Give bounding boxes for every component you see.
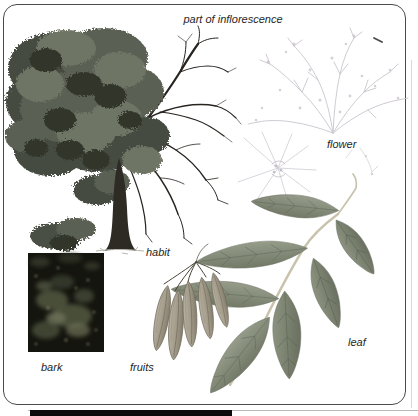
habit-illustration — [5, 26, 241, 254]
label-flower: flower — [327, 138, 358, 150]
label-part-of-inflorescence: part of inflorescence — [182, 13, 282, 25]
label-fruits: fruits — [130, 361, 154, 373]
footer-black-bar — [30, 410, 232, 416]
label-bark: bark — [41, 361, 63, 373]
label-habit: habit — [146, 246, 171, 258]
label-leaf: leaf — [348, 336, 367, 348]
pen-tick-mark — [374, 38, 382, 42]
plate-illustration: part of inflorescence flower habit bark … — [0, 0, 418, 416]
leaf-petiole-tip — [338, 174, 356, 214]
inflorescence-sketch — [248, 28, 408, 172]
page-edge-line — [411, 60, 412, 408]
botanical-plate: part of inflorescence flower habit bark … — [0, 0, 418, 416]
low-foliage-clump — [30, 218, 96, 251]
bark-photo — [28, 253, 104, 352]
